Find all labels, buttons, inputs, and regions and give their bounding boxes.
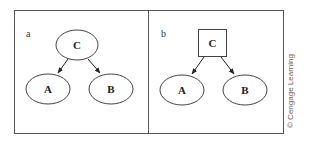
- edge-c-to-a: [58, 59, 68, 73]
- panel-a: a C A B: [26, 28, 133, 104]
- node-c-label: C: [209, 37, 217, 49]
- node-a-label: A: [44, 83, 52, 95]
- node-c-square: C: [199, 30, 227, 57]
- node-b-ellipse: B: [223, 75, 267, 105]
- node-c-ellipse: C: [56, 30, 98, 60]
- node-c-label: C: [73, 39, 81, 51]
- diagram: a C A B b C A B: [0, 0, 310, 142]
- node-a-ellipse: A: [26, 74, 70, 104]
- edge-c-to-b: [88, 59, 100, 73]
- edge-c-to-b: [221, 57, 234, 74]
- panel-label-b: b: [161, 28, 166, 39]
- copyright-credit: © Cengage Learning: [286, 54, 295, 128]
- node-a-ellipse: A: [160, 75, 204, 105]
- node-b-label: B: [241, 84, 249, 96]
- node-b-ellipse: B: [89, 74, 133, 104]
- edge-c-to-a: [192, 57, 204, 74]
- node-a-label: A: [178, 84, 186, 96]
- node-b-label: B: [107, 83, 115, 95]
- panel-b: b C A B: [160, 28, 267, 105]
- panel-label-a: a: [26, 28, 31, 39]
